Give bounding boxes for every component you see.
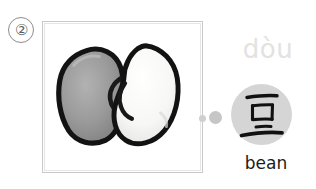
pinyin-label: dòu — [226, 36, 310, 62]
connector-dot-large — [209, 111, 222, 124]
hanzi-character-dou — [231, 84, 292, 145]
item-number-badge: ② — [8, 17, 34, 43]
english-gloss-label: bean — [224, 155, 308, 172]
connector-dot-small — [199, 115, 206, 122]
right-bean — [114, 46, 178, 144]
left-bean — [59, 49, 124, 143]
picture-frame — [42, 21, 203, 173]
hanzi-disc — [231, 84, 292, 145]
vocabulary-card: ② — [0, 0, 316, 189]
two-beans-photo — [43, 22, 202, 172]
